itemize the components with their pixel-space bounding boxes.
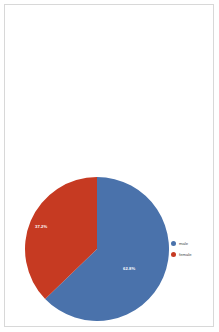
slice-label-male: 62.8% xyxy=(123,266,135,271)
chart-legend: male female xyxy=(171,239,215,261)
legend-marker-female-icon xyxy=(171,252,176,257)
legend-item-male[interactable]: male xyxy=(171,239,215,248)
pie-chart: 37.2% 62.8% male female xyxy=(5,5,213,326)
legend-label-female: female xyxy=(179,252,192,257)
legend-label-male: male xyxy=(179,241,188,246)
page-canvas: 37.2% 62.8% male female xyxy=(0,0,219,332)
pie-graphic: 37.2% 62.8% xyxy=(25,177,169,321)
pie-svg xyxy=(25,177,169,321)
legend-item-female[interactable]: female xyxy=(171,250,215,259)
slice-label-female: 37.2% xyxy=(35,224,47,229)
legend-marker-male-icon xyxy=(171,241,176,246)
